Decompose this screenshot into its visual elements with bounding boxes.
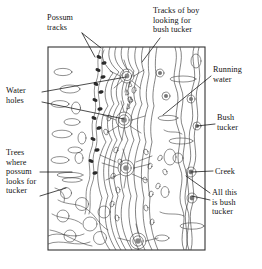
leader-creek [191, 171, 213, 172]
label-all-this-is-bush-tucker: All this is bush tucker [212, 188, 237, 217]
leader-tracks-of-boy [142, 38, 160, 62]
leader-all-bush-tucker-b [186, 176, 210, 193]
leader-all-bush-tucker-a [192, 196, 210, 200]
label-water-holes: Water holes [6, 86, 26, 105]
leader-trees-b [40, 188, 66, 196]
figure-container: Possum tracks Tracks of boy looking for … [0, 0, 262, 269]
label-bush-tucker: Bush tucker [217, 113, 238, 132]
label-creek: Creek [215, 167, 235, 177]
label-tracks-of-boy: Tracks of boy looking for bush tucker [153, 6, 199, 35]
leader-bush-tucker [197, 124, 215, 126]
annotation-leader-lines [0, 0, 262, 269]
leader-running-water [163, 76, 211, 115]
label-running-water: Running water [213, 65, 242, 84]
leader-possum-tracks-b [82, 33, 95, 57]
leader-possum-tracks-a [82, 33, 101, 48]
leader-water-holes-a [42, 77, 126, 92]
label-trees-where-possum: Trees where possum looks for tucker [6, 148, 36, 196]
label-possum-tracks: Possum tracks [47, 13, 73, 32]
leader-water-holes-b [42, 102, 124, 119]
